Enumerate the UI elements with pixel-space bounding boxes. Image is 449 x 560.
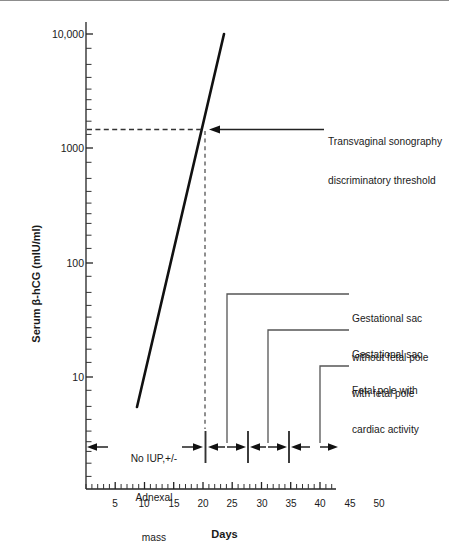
annotation-threshold-line2: discriminatory threshold xyxy=(328,174,448,187)
x-tick-label-35: 35 xyxy=(278,498,304,510)
annotation-cardiac-line1: Fetal pole with xyxy=(352,384,448,397)
chart-plot-area xyxy=(0,1,449,560)
annotation-threshold-line1: Transvaginal sonography xyxy=(328,135,448,148)
y-axis-major-ticks xyxy=(86,34,93,377)
annotation-no-iup-adnexal-mass: No IUP,+/- Adnexal mass xyxy=(107,425,201,560)
fetal-pole-with-cardiac-activity-bracket xyxy=(320,366,349,443)
figure-panel: 10,000 1000 100 10 5 10 15 20 25 30 35 4… xyxy=(0,0,449,560)
x-tick-label-40: 40 xyxy=(307,498,333,510)
annotation-noiup-line1: No IUP,+/- xyxy=(107,452,201,465)
annotation-fetal-pole-with-cardiac-activity: Fetal pole with cardiac activity xyxy=(352,358,448,462)
x-axis-title: Days xyxy=(0,528,449,541)
x-tick-label-30: 30 xyxy=(249,498,275,510)
x-tick-label-25: 25 xyxy=(219,498,245,510)
gestational-sac-without-fetal-pole-bracket xyxy=(227,294,349,443)
y-axis-title: Serum β-hCG (mIU/ml) xyxy=(30,184,43,384)
annotation-transvaginal-threshold: Transvaginal sonography discriminatory t… xyxy=(328,109,448,213)
annotation-noiup-line2: Adnexal xyxy=(107,491,201,504)
x-tick-label-45: 45 xyxy=(337,498,363,510)
y-tick-label-1000: 1000 xyxy=(26,142,84,155)
threshold-callout-arrow xyxy=(209,125,324,133)
gestational-sac-with-fetal-pole-bracket xyxy=(268,330,349,443)
annotation-cardiac-line2: cardiac activity xyxy=(352,423,448,436)
x-tick-label-50: 50 xyxy=(366,498,392,510)
annotation-noiup-line3: mass xyxy=(107,531,201,544)
beta-hcg-rise-line xyxy=(137,34,224,407)
y-tick-label-10000: 10,000 xyxy=(26,28,84,41)
